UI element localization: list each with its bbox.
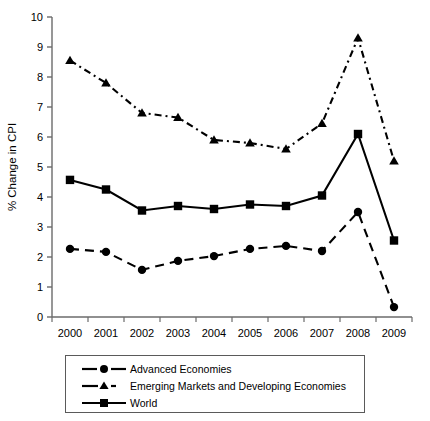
- y-axis-tick-label: 1: [37, 281, 43, 293]
- x-axis-tick-label: 2001: [94, 327, 118, 339]
- legend-label-world: World: [130, 397, 157, 409]
- series-line: [70, 38, 394, 161]
- data-point-marker: [390, 303, 398, 311]
- data-point-marker: [246, 200, 254, 208]
- data-point-marker: [282, 202, 290, 210]
- data-point-marker: [210, 205, 218, 213]
- data-point-marker: [354, 130, 362, 138]
- legend-swatch-triangle-dashdot: [80, 379, 128, 393]
- legend-item-emerging-markets: Emerging Markets and Developing Economie…: [66, 377, 364, 394]
- cpi-inflation-line-chart: 0123456789102000200120022003200420052006…: [0, 0, 430, 421]
- series-emerging-markets-and-developing-economies: [65, 33, 399, 164]
- legend-item-advanced-economies: Advanced Economies: [66, 360, 364, 377]
- series-line: [70, 212, 394, 307]
- plot-area: 0123456789102000200120022003200420052006…: [0, 0, 430, 348]
- data-point-marker: [174, 202, 182, 210]
- data-point-marker: [390, 236, 398, 244]
- x-axis-tick-label: 2006: [274, 327, 298, 339]
- x-axis-tick-label: 2009: [382, 327, 406, 339]
- y-axis-tick-label: 6: [37, 131, 43, 143]
- series-advanced-economies: [66, 208, 398, 311]
- x-axis-tick-label: 2005: [238, 327, 262, 339]
- y-axis-tick-label: 0: [37, 311, 43, 323]
- chart-legend: Advanced Economies Emerging Markets and …: [65, 355, 365, 413]
- legend-label-advanced-economies: Advanced Economies: [130, 363, 232, 375]
- legend-swatch-circle-dashed: [80, 362, 128, 376]
- data-point-marker: [174, 257, 182, 265]
- x-axis-tick-label: 2003: [166, 327, 190, 339]
- data-point-marker: [138, 266, 146, 274]
- series-world: [66, 130, 398, 245]
- data-point-marker: [282, 242, 290, 250]
- data-point-marker: [138, 206, 146, 214]
- x-axis-tick-label: 2002: [130, 327, 154, 339]
- x-axis-tick-label: 2008: [346, 327, 370, 339]
- y-axis-tick-label: 7: [37, 101, 43, 113]
- y-axis-tick-label: 2: [37, 251, 43, 263]
- y-axis-tick-label: 9: [37, 41, 43, 53]
- y-axis-tick-label: 3: [37, 221, 43, 233]
- y-axis-tick-label: 4: [37, 191, 43, 203]
- series-line: [70, 134, 394, 241]
- data-point-marker: [317, 119, 327, 127]
- x-axis-tick-label: 2000: [58, 327, 82, 339]
- data-point-marker: [66, 245, 74, 253]
- x-axis-tick-label: 2004: [202, 327, 226, 339]
- data-point-marker: [389, 156, 399, 164]
- data-point-marker: [353, 33, 363, 41]
- data-point-marker: [246, 245, 254, 253]
- chart-canvas: 0123456789102000200120022003200420052006…: [0, 0, 430, 348]
- data-point-marker: [210, 252, 218, 260]
- legend-item-world: World: [66, 394, 364, 411]
- data-point-marker: [281, 144, 291, 152]
- data-point-marker: [137, 108, 147, 116]
- data-point-marker: [318, 247, 326, 255]
- x-axis-tick-label: 2007: [310, 327, 334, 339]
- legend-label-emerging-markets: Emerging Markets and Developing Economie…: [130, 380, 346, 392]
- data-point-marker: [65, 56, 75, 64]
- y-axis-tick-label: 5: [37, 161, 43, 173]
- data-point-marker: [318, 191, 326, 199]
- data-point-marker: [354, 208, 362, 216]
- data-point-marker: [245, 138, 255, 146]
- legend-swatch-square-solid: [80, 396, 128, 410]
- data-point-marker: [66, 176, 74, 184]
- y-axis-tick-label: 8: [37, 71, 43, 83]
- y-axis-tick-label: 10: [31, 11, 43, 23]
- data-point-marker: [102, 185, 110, 193]
- data-point-marker: [101, 78, 111, 86]
- data-point-marker: [102, 248, 110, 256]
- y-axis-title: % Change in CPI: [6, 123, 18, 211]
